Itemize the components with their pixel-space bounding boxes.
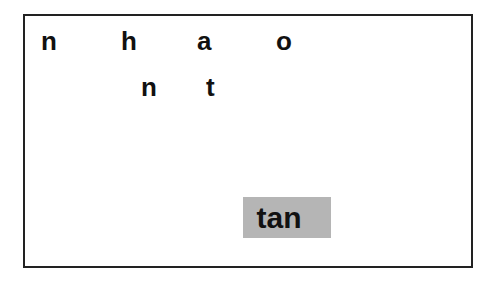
letter-tile[interactable]: n bbox=[41, 28, 57, 54]
formed-word-text: tan bbox=[257, 201, 302, 235]
formed-word-tile[interactable]: tan bbox=[243, 197, 331, 238]
game-board: n h a o n t tan bbox=[23, 14, 473, 268]
letter-tile[interactable]: t bbox=[206, 74, 215, 100]
letter-tile[interactable]: a bbox=[197, 28, 211, 54]
letter-tile[interactable]: o bbox=[276, 28, 292, 54]
letter-tile[interactable]: n bbox=[141, 74, 157, 100]
letter-tile[interactable]: h bbox=[121, 28, 137, 54]
